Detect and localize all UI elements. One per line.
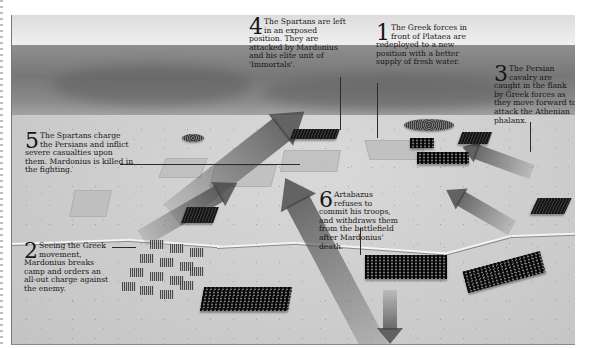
leader-line-2 (112, 247, 136, 248)
annotation-number: 1 (376, 24, 390, 41)
annotation-3: 3 The Persian cavalry are caught in the … (494, 65, 575, 125)
leader-line-1 (377, 83, 378, 138)
persian-unit (181, 207, 219, 223)
persian-camp (182, 134, 204, 142)
greek-phalanx (290, 129, 340, 139)
annotation-5: 5 The Spartans charge the Persians and i… (25, 132, 135, 175)
annotation-number: 3 (494, 65, 508, 82)
farm-field (69, 190, 112, 217)
persian-army (200, 287, 292, 311)
leader-line-5 (120, 164, 300, 165)
greek-phalanx (410, 138, 434, 148)
leader-line-4 (340, 77, 341, 130)
battle-illustration: 4 The Spartans are left in an exposed po… (11, 15, 575, 345)
annotation-1: 1 The Greek forces in front of Plataea a… (376, 24, 468, 67)
annotation-6: 6 Artabazus refuses to commit his troops… (319, 191, 401, 251)
page-binding-margin (0, 0, 6, 348)
retreat-arrow (377, 290, 403, 345)
greek-camp (404, 119, 454, 131)
annotation-number: 5 (25, 132, 39, 149)
annotation-text: The Spartans are left in an exposed posi… (249, 17, 346, 69)
annotation-number: 6 (319, 191, 333, 208)
annotation-2: 2 Seeing the Greek movement, Mardonius b… (24, 242, 114, 294)
greek-phalanx (417, 152, 469, 164)
annotation-4: 4 The Spartans are left in an exposed po… (249, 18, 349, 70)
farm-field (280, 150, 341, 172)
annotation-number: 4 (249, 18, 263, 35)
annotation-text: The Spartans charge the Persians and inf… (25, 131, 133, 174)
persian-infantry-blocks (122, 240, 212, 310)
annotation-number: 2 (24, 242, 38, 259)
leader-line-3 (530, 122, 531, 152)
greek-phalanx (458, 132, 492, 144)
artabazus-troops (365, 255, 447, 279)
